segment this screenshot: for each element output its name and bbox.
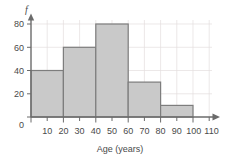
x-tick-label-50: 50 xyxy=(107,126,117,136)
x-tick-label-20: 20 xyxy=(58,126,68,136)
y-tick-label-20: 20 xyxy=(14,89,24,99)
x-tick-label-80: 80 xyxy=(156,126,166,136)
x-tick-label-30: 30 xyxy=(75,126,85,136)
x-tick-label-100: 100 xyxy=(186,126,201,136)
x-tick-label-40: 40 xyxy=(91,126,101,136)
y-axis-label: f xyxy=(25,4,29,15)
y-tick-label-80: 80 xyxy=(14,19,24,29)
y-tick-label-60: 60 xyxy=(14,43,24,53)
bar-20-40 xyxy=(63,47,95,117)
x-tick-labels: 10 20 30 40 50 60 70 80 90 100 110 xyxy=(42,126,218,136)
bar-40-60 xyxy=(96,24,128,117)
x-axis-arrow-icon xyxy=(213,114,221,121)
y-tick-labels: 0 20 40 60 80 xyxy=(14,19,24,129)
x-axis-title: Age (years) xyxy=(97,144,144,154)
chart-canvas: f 0 20 40 60 80 10 20 30 40 50 60 70 80 … xyxy=(0,0,228,160)
bar-60-80 xyxy=(128,82,160,117)
y-tick-label-0: 0 xyxy=(19,120,24,130)
x-tick-label-60: 60 xyxy=(123,126,133,136)
bar-80-100 xyxy=(161,105,193,117)
x-tick-label-70: 70 xyxy=(139,126,149,136)
x-tick-label-90: 90 xyxy=(172,126,182,136)
x-tick-label-10: 10 xyxy=(42,126,52,136)
x-tick-label-110: 110 xyxy=(204,126,218,136)
y-tick-label-40: 40 xyxy=(14,66,24,76)
histogram-chart: f 0 20 40 60 80 10 20 30 40 50 60 70 80 … xyxy=(0,0,228,160)
y-axis-arrow-icon xyxy=(28,14,34,21)
bar-0-20 xyxy=(31,71,63,118)
x-tickmarks xyxy=(31,117,209,123)
